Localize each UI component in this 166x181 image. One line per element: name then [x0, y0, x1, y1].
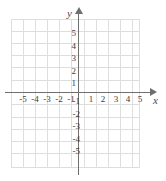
y-axis-arrow-icon: [75, 7, 83, 14]
y-axis-tick-label: 2: [64, 67, 76, 76]
y-axis-tick-label: -5: [68, 147, 80, 156]
grid-line-vertical: [120, 19, 121, 168]
y-axis-tick-label: 3: [64, 54, 76, 63]
grid-line-vertical: [11, 19, 12, 168]
grid-line-vertical: [108, 19, 109, 168]
grid-line-vertical: [96, 19, 97, 168]
y-axis-tick-label: -2: [68, 110, 80, 119]
x-axis-label: x: [153, 95, 158, 106]
grid-line-vertical: [132, 19, 133, 168]
grid-line-vertical: [84, 19, 85, 168]
y-axis-tick-label: 1: [64, 79, 76, 88]
y-axis-tick-label: 5: [64, 29, 76, 38]
y-axis-tick-label: -4: [68, 135, 80, 144]
grid-line-horizontal: [11, 19, 140, 20]
x-axis-tick-label: 2: [96, 95, 110, 104]
coordinate-plane: x y -5-4-3-2-11234554321-1-2-3-4-5: [0, 0, 166, 181]
y-axis-tick-label: 4: [64, 42, 76, 51]
y-axis-tick-label: -3: [68, 122, 80, 131]
y-axis-label: y: [67, 8, 72, 19]
y-axis-tick-label: -1: [68, 97, 80, 106]
x-axis-tick-label: 5: [133, 95, 147, 104]
grid-line-horizontal: [11, 167, 140, 168]
